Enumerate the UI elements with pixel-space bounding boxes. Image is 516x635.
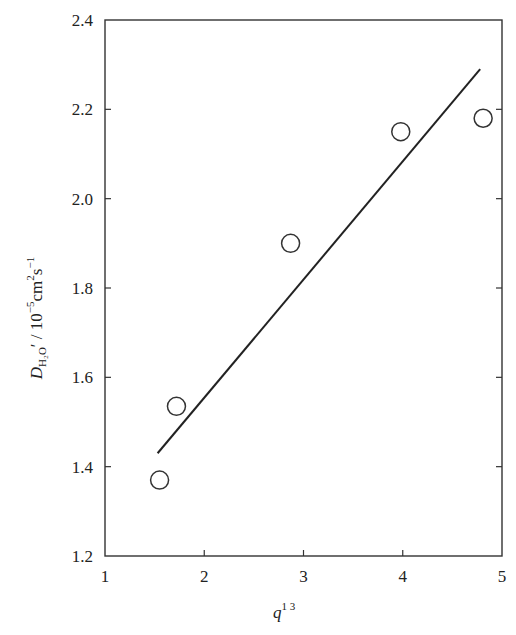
data-point-marker (167, 397, 185, 415)
y-axis-title: DH₂O′ / 10−5cm2s−1 (24, 257, 48, 380)
x-tick-label: 2 (200, 567, 209, 586)
data-points (151, 109, 493, 489)
x-tick-label: 1 (101, 567, 110, 586)
axis-ticks (105, 109, 502, 556)
x-tick-labels: 12345 (101, 567, 507, 586)
x-tick-label: 5 (498, 567, 507, 586)
y-tick-label: 1.6 (72, 368, 93, 387)
chart: 12345 1.21.41.61.82.02.22.4 q1 3 DH₂O′ /… (0, 0, 516, 635)
x-axis-title: q1 3 (273, 600, 296, 622)
y-tick-label: 2.2 (72, 100, 93, 119)
plot-border (105, 20, 502, 556)
y-tick-label: 1.8 (72, 279, 93, 298)
data-point-marker (282, 234, 300, 252)
y-tick-label: 1.4 (72, 458, 94, 477)
x-tick-label: 3 (299, 567, 308, 586)
y-tick-label: 2.4 (72, 11, 94, 30)
data-point-marker (474, 109, 492, 127)
data-point-marker (151, 471, 169, 489)
y-tick-label: 1.2 (72, 547, 93, 566)
data-point-marker (392, 123, 410, 141)
plot-frame (105, 20, 502, 556)
y-tick-label: 2.0 (72, 190, 93, 209)
y-tick-labels: 1.21.41.61.82.02.22.4 (72, 11, 94, 566)
fit-line-segment (158, 69, 481, 453)
x-tick-label: 4 (399, 567, 408, 586)
fit-line (158, 69, 481, 453)
